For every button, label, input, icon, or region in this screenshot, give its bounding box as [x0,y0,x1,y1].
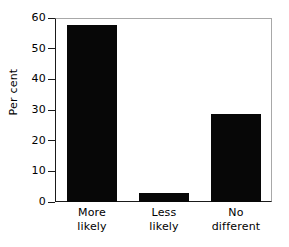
bars-group [56,19,272,202]
bar-chart: Per cent 0102030405060 MorelikelyLesslik… [0,0,289,247]
bar-2 [139,193,189,202]
y-tick-label-0: 0 [6,196,46,207]
x-axis-label-3: Nodifferent [191,206,281,233]
y-tick-label-50: 50 [6,43,46,54]
y-axis-title: Per cent [8,56,20,128]
y-tick-20 [48,140,55,141]
y-tick-60 [48,18,55,19]
y-tick-label-30: 30 [6,104,46,115]
y-tick-label-20: 20 [6,135,46,146]
y-tick-0 [48,202,55,203]
y-tick-label-40: 40 [6,73,46,84]
x-axis-label-3-line-1: No [191,206,281,220]
y-tick-10 [48,171,55,172]
y-tick-50 [48,48,55,49]
y-tick-40 [48,79,55,80]
bar-1 [67,25,117,202]
y-tick-label-10: 10 [6,165,46,176]
y-tick-label-60: 60 [6,12,46,23]
y-tick-30 [48,110,55,111]
bar-3 [211,114,261,202]
x-axis-label-3-line-2: different [191,220,281,234]
